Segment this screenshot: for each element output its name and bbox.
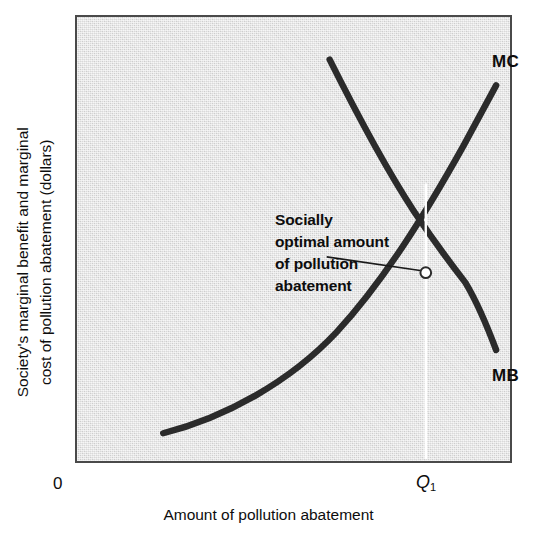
y-axis-title-line-1: Society's marginal benefit and marginal xyxy=(11,42,34,482)
annotation-line-3: of pollution xyxy=(275,253,425,275)
optimum-q-subscript: 1 xyxy=(430,481,436,493)
plot-area: Socially optimal amount of pollution aba… xyxy=(75,15,512,463)
mb-curve-label: MB xyxy=(492,366,519,386)
annotation-line-2: optimal amount xyxy=(275,231,425,253)
socially-optimal-annotation: Socially optimal amount of pollution aba… xyxy=(275,209,425,297)
y-axis-title-line-2: cost of pollution abatement (dollars) xyxy=(34,42,57,482)
y-axis-title: Society's marginal benefit and marginal … xyxy=(11,42,58,482)
mb-curve xyxy=(330,60,496,350)
x-axis-optimum-tick-label: Q1 xyxy=(416,472,436,493)
annotation-line-4: abatement xyxy=(275,275,425,297)
x-axis-title: Amount of pollution abatement xyxy=(0,506,537,524)
optimum-q-letter: Q xyxy=(416,472,430,492)
economics-figure: Socially optimal amount of pollution aba… xyxy=(0,0,537,534)
mc-curve-label: MC xyxy=(492,52,519,72)
annotation-line-1: Socially xyxy=(275,209,425,231)
